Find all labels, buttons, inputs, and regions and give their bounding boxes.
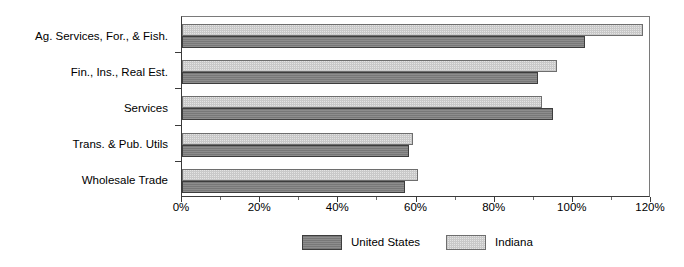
bar-united-states [182, 108, 553, 120]
category-label: Fin., Ins., Real Est. [0, 66, 168, 78]
bar-indiana [182, 60, 557, 72]
legend-label-united-states: United States [351, 236, 420, 249]
x-axis-tick-label: 120% [600, 200, 684, 214]
y-axis-tick [175, 125, 182, 126]
bar-indiana [182, 96, 542, 108]
category-axis-labels: Ag. Services, For., & Fish. Fin., Ins., … [0, 16, 176, 197]
legend-item-indiana: Indiana [446, 235, 533, 250]
legend-item-united-states: United States [302, 235, 420, 250]
y-axis-tick [175, 88, 182, 89]
bars-layer [182, 17, 649, 196]
bar-chart: Ag. Services, For., & Fish. Fin., Ins., … [0, 0, 684, 267]
bar-united-states [182, 181, 405, 193]
category-label: Trans. & Pub. Utils [0, 138, 168, 150]
category-label: Ag. Services, For., & Fish. [0, 30, 168, 42]
bar-indiana [182, 169, 418, 181]
chart-legend: United States Indiana [302, 231, 533, 253]
category-label: Services [0, 102, 168, 114]
bar-united-states [182, 36, 585, 48]
legend-swatch-united-states [302, 235, 342, 250]
y-axis-tick [175, 161, 182, 162]
bar-united-states [182, 72, 538, 84]
plot-area [181, 16, 650, 197]
bar-indiana [182, 24, 643, 36]
legend-swatch-indiana [446, 235, 486, 250]
category-label: Wholesale Trade [0, 174, 168, 186]
x-axis-tick-labels: 0%20%40%60%80%100%120% [131, 200, 684, 216]
y-axis-ticks [175, 16, 182, 197]
bar-indiana [182, 133, 413, 145]
legend-label-indiana: Indiana [495, 236, 533, 249]
y-axis-tick [175, 52, 182, 53]
bar-united-states [182, 145, 409, 157]
